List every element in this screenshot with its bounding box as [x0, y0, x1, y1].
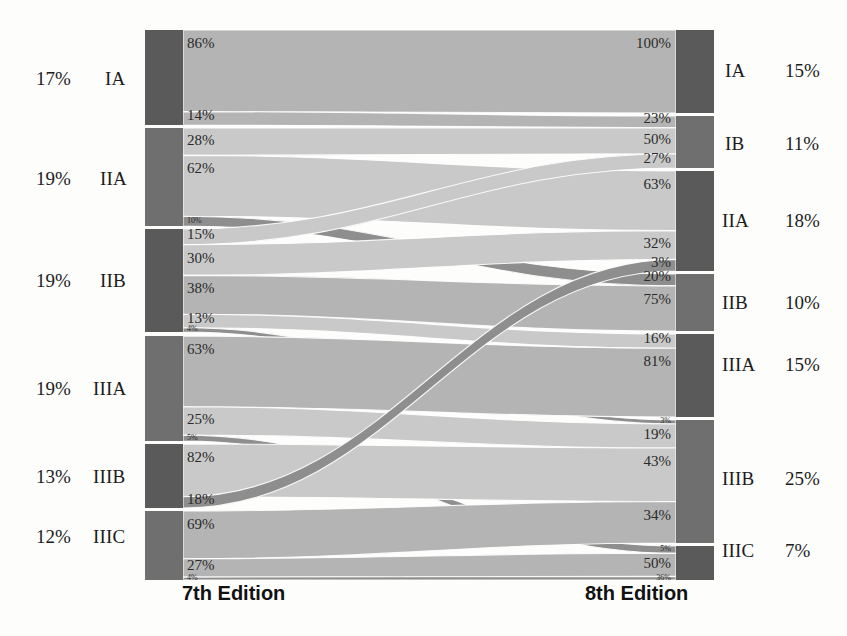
right-label-IIA: IIA	[722, 210, 749, 232]
right-share-IIIA: 15%	[785, 354, 820, 376]
link-source-pct: 63%	[187, 341, 215, 357]
link-target-pct: 36%	[656, 573, 671, 582]
link-target-pct: 3%	[651, 254, 671, 270]
link-target-pct: 75%	[644, 291, 672, 307]
right-axis-title: 8th Edition	[585, 582, 688, 605]
sankey-link	[183, 128, 676, 156]
link-target-pct: 16%	[644, 330, 672, 346]
right-label-IB: IB	[725, 133, 744, 155]
link-source-pct: 18%	[187, 491, 215, 507]
sankey-canvas: 86%100%14%23%28%50%62%63%10%20%15%27%30%…	[0, 0, 847, 636]
left-node-IIA[interactable]	[145, 128, 183, 226]
left-node-IA[interactable]	[145, 30, 183, 125]
link-source-pct: 14%	[187, 107, 215, 123]
right-label-IA: IA	[725, 60, 745, 82]
right-node-IA[interactable]	[676, 30, 714, 113]
right-label-IIB: IIB	[722, 292, 748, 314]
left-node-IIIA[interactable]	[145, 336, 183, 441]
sankey-links	[183, 30, 676, 580]
link-target-pct: 20%	[644, 268, 672, 284]
left-share-IIA: 19%	[36, 168, 71, 190]
right-label-IIIA: IIIA	[722, 354, 756, 376]
link-target-pct: 5%	[660, 544, 671, 553]
right-share-IIIB: 25%	[785, 468, 820, 490]
link-target-pct: 43%	[644, 453, 672, 469]
sankey-figure: 86%100%14%23%28%50%62%63%10%20%15%27%30%…	[0, 0, 847, 636]
link-source-pct: 25%	[187, 411, 215, 427]
right-node-IIB[interactable]	[676, 274, 714, 331]
sankey-link	[183, 30, 676, 113]
left-label-IIA: IIA	[100, 168, 127, 190]
sankey-link	[183, 576, 676, 580]
right-node-IIIC[interactable]	[676, 546, 714, 580]
left-label-IIIC: IIIC	[93, 526, 125, 548]
link-source-pct: 82%	[187, 449, 215, 465]
left-share-IIIA: 19%	[36, 378, 71, 400]
link-source-pct: 5%	[187, 433, 198, 442]
left-label-IIB: IIB	[100, 270, 126, 292]
link-target-pct: 81%	[644, 353, 672, 369]
right-node-IB[interactable]	[676, 116, 714, 168]
right-label-IIIB: IIIB	[722, 468, 754, 490]
left-label-IA: IA	[105, 68, 125, 90]
link-source-pct: 10%	[187, 216, 202, 225]
left-node-IIIC[interactable]	[145, 511, 183, 580]
right-share-IIA: 18%	[785, 210, 820, 232]
link-target-pct: 27%	[644, 150, 672, 166]
left-label-IIIA: IIIA	[93, 378, 127, 400]
link-target-pct: 32%	[644, 235, 672, 251]
link-target-pct: 23%	[644, 110, 672, 126]
left-axis-title: 7th Edition	[182, 582, 285, 605]
link-target-pct: 3%	[660, 416, 671, 425]
right-node-IIA[interactable]	[676, 171, 714, 271]
link-source-pct: 62%	[187, 160, 215, 176]
left-share-IIIC: 12%	[36, 526, 71, 548]
right-share-IIB: 10%	[785, 292, 820, 314]
left-share-IIB: 19%	[36, 270, 71, 292]
link-target-pct: 34%	[644, 507, 672, 523]
link-source-pct: 15%	[187, 226, 215, 242]
left-share-IIIB: 13%	[36, 466, 71, 488]
sankey-link	[183, 502, 676, 559]
right-node-IIIA[interactable]	[676, 334, 714, 417]
link-target-pct: 50%	[644, 131, 672, 147]
left-share-IA: 17%	[36, 68, 71, 90]
link-source-pct: 27%	[187, 557, 215, 573]
link-target-pct: 63%	[644, 176, 672, 192]
left-label-IIIB: IIIB	[93, 466, 125, 488]
left-node-IIB[interactable]	[145, 229, 183, 332]
link-target-pct: 50%	[644, 555, 672, 571]
link-source-pct: 69%	[187, 516, 215, 532]
link-source-pct: 4%	[187, 573, 198, 582]
link-source-pct: 38%	[187, 280, 215, 296]
right-share-IIIC: 7%	[785, 540, 810, 562]
link-source-pct: 86%	[187, 35, 215, 51]
sankey-link	[183, 336, 676, 417]
sankey-link	[183, 112, 676, 128]
link-source-pct: 13%	[187, 310, 215, 326]
left-node-IIIB[interactable]	[145, 444, 183, 508]
link-source-pct: 4%	[187, 324, 198, 333]
link-target-pct: 100%	[636, 35, 671, 51]
link-source-pct: 28%	[187, 132, 215, 148]
right-share-IA: 15%	[785, 60, 820, 82]
right-label-IIIC: IIIC	[722, 540, 754, 562]
link-source-pct: 30%	[187, 250, 215, 266]
right-share-IB: 11%	[785, 133, 819, 155]
link-target-pct: 19%	[644, 426, 672, 442]
right-node-IIIB[interactable]	[676, 420, 714, 543]
